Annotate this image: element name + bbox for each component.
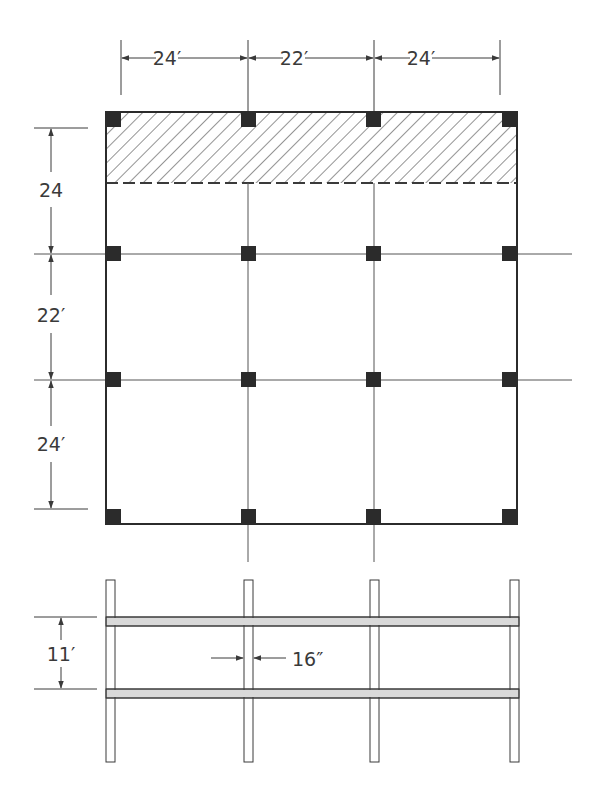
column [502,112,517,127]
left-dimension-label: 24′ [37,433,66,455]
column [366,509,381,524]
left-dimension-label: 24 [39,179,63,201]
top-dimension-label: 24′ [407,47,436,69]
floor-plan [34,112,572,562]
elevation-view: 11′ 16″ [34,580,519,762]
elevation-post [370,580,379,762]
column [366,112,381,127]
column [366,246,381,261]
structural-framing-diagram: 24′ 22′ 24′ [0,0,596,797]
left-dimension-label: 22′ [37,304,66,326]
column [106,372,121,387]
elevation-post [106,580,115,762]
top-dimension-label: 24′ [153,47,182,69]
column-width-label: 16″ [292,648,323,670]
elevation-post [510,580,519,762]
column [502,246,517,261]
column [241,246,256,261]
column [241,372,256,387]
elevation-post [244,580,253,762]
story-height-label: 11′ [47,643,76,665]
column [106,509,121,524]
top-dimension-label: 22′ [280,47,309,69]
column [241,509,256,524]
column [241,112,256,127]
hatched-area [106,112,517,183]
column [502,372,517,387]
column [106,112,121,127]
column [366,372,381,387]
column [502,509,517,524]
column [106,246,121,261]
